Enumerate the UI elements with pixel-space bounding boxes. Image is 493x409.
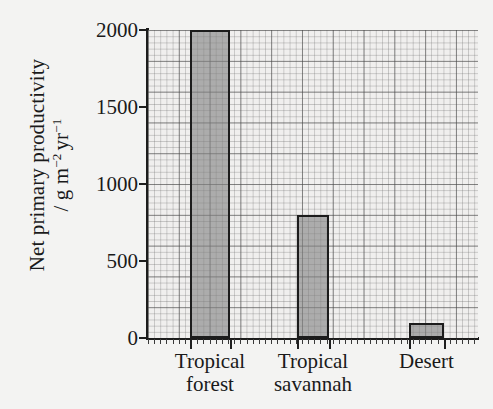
y-axis-title-line-1: Net primary productivity bbox=[26, 59, 50, 271]
x-axis-minor-tick bbox=[302, 339, 303, 344]
y-axis-tick-label: 0 bbox=[128, 326, 139, 351]
x-axis-minor-tick bbox=[351, 339, 352, 344]
x-axis-minor-tick bbox=[259, 339, 260, 344]
bar bbox=[190, 30, 230, 338]
x-axis-minor-tick bbox=[388, 339, 389, 344]
y-axis-tick-label: 1500 bbox=[96, 95, 138, 120]
x-axis-category-label-line-1: Tropical bbox=[278, 349, 348, 373]
x-axis-minor-tick bbox=[407, 339, 408, 344]
x-axis-minor-tick bbox=[240, 339, 241, 344]
x-axis-minor-tick bbox=[376, 339, 377, 344]
x-axis-minor-tick bbox=[431, 339, 432, 344]
x-axis-minor-tick bbox=[370, 339, 371, 344]
x-axis-minor-tick bbox=[468, 339, 469, 344]
y-axis-tick-label: 500 bbox=[107, 249, 139, 274]
y-axis-tick-label: 2000 bbox=[96, 18, 138, 43]
x-axis-minor-tick bbox=[290, 339, 291, 344]
x-axis-minor-tick bbox=[364, 339, 365, 344]
x-axis-major-tick bbox=[409, 339, 411, 349]
x-axis-minor-tick bbox=[425, 339, 426, 344]
x-axis-minor-tick bbox=[401, 339, 402, 344]
y-axis-tick-labels: 0500100015002000 bbox=[70, 0, 138, 409]
x-axis-minor-tick bbox=[382, 339, 383, 344]
x-axis-minor-tick bbox=[247, 339, 248, 344]
x-axis-minor-tick bbox=[166, 339, 167, 344]
plot-area bbox=[148, 30, 478, 338]
x-axis-minor-tick bbox=[234, 339, 235, 344]
x-axis-minor-tick bbox=[210, 339, 211, 344]
x-axis-major-tick bbox=[190, 339, 192, 349]
x-axis-minor-tick bbox=[438, 339, 439, 344]
x-axis-minor-tick bbox=[450, 339, 451, 344]
y-axis-units-sup-1: −2 bbox=[49, 154, 64, 168]
x-axis-major-tick bbox=[230, 339, 232, 349]
x-axis-minor-tick bbox=[314, 339, 315, 344]
x-axis-minor-tick bbox=[271, 339, 272, 344]
x-axis-minor-tick bbox=[462, 339, 463, 344]
x-axis-minor-tick bbox=[345, 339, 346, 344]
x-axis-minor-tick bbox=[320, 339, 321, 344]
x-axis-minor-tick bbox=[216, 339, 217, 344]
x-axis-minor-tick bbox=[173, 339, 174, 344]
x-axis-minor-tick bbox=[185, 339, 186, 344]
x-axis-minor-tick bbox=[284, 339, 285, 344]
x-axis-category-label-line-2: savannah bbox=[243, 373, 383, 396]
bar bbox=[409, 323, 444, 338]
x-axis-minor-tick bbox=[160, 339, 161, 344]
x-axis-major-tick bbox=[444, 339, 446, 349]
bar bbox=[297, 215, 329, 338]
x-axis-minor-tick bbox=[456, 339, 457, 344]
x-axis-minor-tick bbox=[327, 339, 328, 344]
x-axis-minor-tick bbox=[203, 339, 204, 344]
x-axis-minor-tick bbox=[308, 339, 309, 344]
x-axis-minor-tick bbox=[339, 339, 340, 344]
x-axis-minor-tick bbox=[357, 339, 358, 344]
x-axis-category-label-line-1: Tropical bbox=[175, 349, 245, 373]
x-axis-minor-tick bbox=[394, 339, 395, 344]
x-axis-minor-tick bbox=[419, 339, 420, 344]
x-axis-minor-tick bbox=[277, 339, 278, 344]
y-axis-units-sup-2: −1 bbox=[49, 119, 64, 133]
x-axis-category-label: Desert bbox=[357, 350, 493, 373]
bar-chart-figure: Net primary productivity / g m−2yr−1 050… bbox=[0, 0, 493, 409]
x-axis-minor-tick bbox=[222, 339, 223, 344]
x-axis-minor-tick bbox=[265, 339, 266, 344]
x-axis-minor-tick bbox=[179, 339, 180, 344]
x-axis-minor-tick bbox=[413, 339, 414, 344]
x-axis-minor-tick bbox=[148, 339, 149, 344]
x-axis-category-label-line-1: Desert bbox=[399, 349, 454, 373]
x-axis-minor-tick bbox=[228, 339, 229, 344]
x-axis-minor-tick bbox=[197, 339, 198, 344]
y-axis-tick-label: 1000 bbox=[96, 172, 138, 197]
x-axis-minor-tick bbox=[333, 339, 334, 344]
x-axis-major-tick bbox=[297, 339, 299, 349]
x-axis-minor-tick bbox=[154, 339, 155, 344]
x-axis-minor-tick bbox=[253, 339, 254, 344]
x-axis-major-tick bbox=[329, 339, 331, 349]
x-axis-minor-tick bbox=[474, 339, 475, 344]
